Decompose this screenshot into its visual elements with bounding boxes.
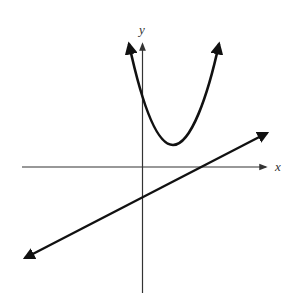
linear-line (25, 133, 267, 258)
y-axis-label: y (137, 22, 145, 37)
coordinate-graph: x y (0, 0, 294, 296)
x-axis-label: x (274, 159, 281, 174)
